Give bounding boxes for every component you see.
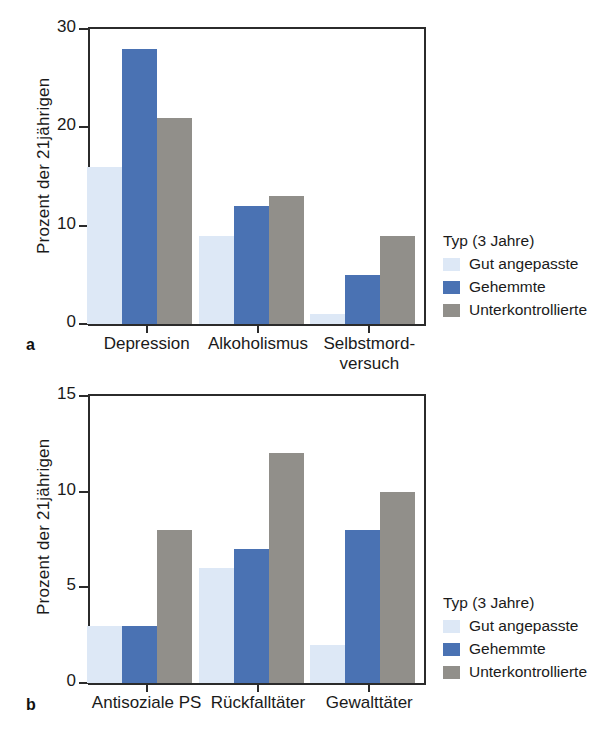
bar — [345, 530, 380, 683]
x-tick-mark — [146, 324, 148, 333]
bar — [234, 206, 269, 324]
y-tick-label: 30 — [57, 17, 76, 37]
legend-swatch-icon-gut-angepasste-b — [443, 620, 460, 633]
legend-label-unterkontrollierte-b: Unterkontrollierte — [469, 663, 587, 681]
bar — [345, 275, 380, 324]
bar — [157, 530, 192, 683]
legend-swatch-icon-unterkontrollierte-a — [443, 304, 460, 317]
plot-area-a — [88, 27, 426, 326]
legend-item-gut-angepasste-b: Gut angepasste — [443, 617, 587, 635]
legend-swatch-icon-gehemmte-b — [443, 643, 460, 656]
legend-title-a: Typ (3 Jahre) — [443, 232, 587, 250]
y-tick-mark — [79, 491, 88, 493]
y-tick-label: 0 — [67, 671, 76, 691]
bar — [122, 626, 157, 683]
bar — [269, 196, 304, 324]
bar — [87, 626, 122, 683]
bar — [310, 645, 345, 683]
bar — [199, 236, 234, 325]
bar-series-b — [90, 396, 424, 683]
bar — [122, 49, 157, 324]
x-tick-mark — [257, 683, 259, 692]
y-tick-label: 10 — [57, 480, 76, 500]
chart-panel-a: Prozent der 21jährigen 0102030 Depressio… — [0, 0, 600, 368]
legend-title-b: Typ (3 Jahre) — [443, 594, 587, 612]
legend-item-gehemmte-a: Gehemmte — [443, 278, 587, 296]
panel-letter-a: a — [26, 336, 35, 354]
bar — [199, 568, 234, 683]
y-tick-label: 0 — [67, 312, 76, 332]
legend-swatch-icon-gut-angepasste-a — [443, 258, 460, 271]
x-tick-mark — [368, 683, 370, 692]
bar — [310, 314, 345, 324]
bar — [269, 453, 304, 683]
y-tick-label: 20 — [57, 115, 76, 135]
legend-item-gehemmte-b: Gehemmte — [443, 640, 587, 658]
y-tick-mark — [79, 126, 88, 128]
legend-label-unterkontrollierte-a: Unterkontrollierte — [469, 301, 587, 319]
x-axis-label: Alkoholismus — [208, 334, 308, 354]
x-tick-mark — [257, 324, 259, 333]
y-tick-label: 5 — [67, 575, 76, 595]
bar-series-a — [90, 29, 424, 324]
legend-a: Typ (3 Jahre) Gut angepasste Gehemmte Un… — [443, 232, 587, 324]
x-axis-label: Depression — [104, 334, 190, 354]
plot-area-b — [88, 394, 426, 685]
legend-label-gut-angepasste-b: Gut angepasste — [469, 617, 578, 635]
x-tick-mark — [146, 683, 148, 692]
bar — [157, 118, 192, 325]
legend-swatch-icon-unterkontrollierte-b — [443, 666, 460, 679]
legend-label-gehemmte-a: Gehemmte — [469, 278, 546, 296]
y-tick-mark — [79, 28, 88, 30]
y-tick-label: 10 — [57, 214, 76, 234]
legend-b: Typ (3 Jahre) Gut angepasste Gehemmte Un… — [443, 594, 587, 686]
bar — [87, 167, 122, 324]
y-tick-label: 15 — [57, 384, 76, 404]
y-tick-mark — [79, 586, 88, 588]
x-axis-label: Gewalttäter — [326, 693, 413, 713]
legend-swatch-icon-gehemmte-a — [443, 281, 460, 294]
y-tick-mark — [79, 395, 88, 397]
bar — [380, 492, 415, 683]
panel-letter-b: b — [26, 696, 36, 714]
bar — [234, 549, 269, 683]
y-axis-ticks-a: 0102030 — [0, 27, 88, 326]
x-axis-label: Antisoziale PS — [92, 693, 202, 713]
x-axis-label: Rückfalltäter — [211, 693, 305, 713]
legend-label-gut-angepasste-a: Gut angepasste — [469, 255, 578, 273]
x-tick-mark — [368, 324, 370, 333]
legend-item-unterkontrollierte-b: Unterkontrollierte — [443, 663, 587, 681]
legend-item-unterkontrollierte-a: Unterkontrollierte — [443, 301, 587, 319]
chart-panel-b: Prozent der 21jährigen 051015 Antisozial… — [0, 367, 600, 735]
y-axis-ticks-b: 051015 — [0, 394, 88, 685]
legend-label-gehemmte-b: Gehemmte — [469, 640, 546, 658]
bar — [380, 236, 415, 325]
legend-item-gut-angepasste-a: Gut angepasste — [443, 255, 587, 273]
